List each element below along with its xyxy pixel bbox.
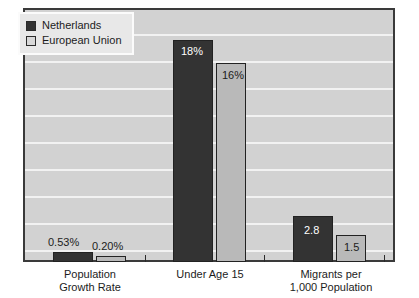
legend-label-netherlands: Netherlands (42, 19, 101, 32)
legend-label-european-union: European Union (42, 34, 122, 47)
axis-tick (384, 255, 385, 262)
category-label-under-age-15: Under Age 15 (150, 268, 270, 281)
legend-item-netherlands: Netherlands (26, 18, 122, 33)
category-label-under-age-15-line-0: Under Age 15 (150, 268, 270, 281)
legend-item-european-union: European Union (26, 33, 122, 48)
bar-migrants-eu-value-label: 1.5 (344, 241, 359, 253)
bar-under-age-15-netherlands-value-label: 18% (181, 45, 203, 57)
category-label-population-growth-rate-line-1: Growth Rate (30, 281, 150, 294)
axis-tick (145, 255, 146, 262)
category-label-population-growth-rate-line-0: Population (30, 268, 150, 281)
legend-swatch-icon-netherlands (26, 21, 36, 31)
axis-tick (264, 255, 265, 262)
bar-population-growth-eu-value-label: 0.20% (92, 240, 123, 252)
bar-under-age-15-eu-value-label: 16% (222, 69, 244, 81)
bar-under-age-15-eu (216, 63, 246, 262)
bar-population-growth-netherlands (53, 252, 93, 262)
bar-migrants-netherlands (293, 216, 333, 262)
category-label-migrants-line-1: 1,000 Population (266, 281, 396, 294)
bar-population-growth-netherlands-value-label: 0.53% (48, 236, 79, 248)
chart-legend: Netherlands European Union (18, 12, 134, 55)
category-label-population-growth-rate: PopulationGrowth Rate (30, 268, 150, 294)
bar-chart: Netherlands European Union 0.53%0.20%18%… (0, 0, 419, 298)
legend-swatch-icon-european-union (26, 36, 36, 46)
bar-under-age-15-netherlands (173, 40, 213, 262)
bar-population-growth-eu (96, 256, 126, 262)
category-label-migrants-line-0: Migrants per (266, 268, 396, 281)
category-label-migrants: Migrants per1,000 Population (266, 268, 396, 294)
bar-migrants-netherlands-value-label: 2.8 (304, 224, 319, 236)
